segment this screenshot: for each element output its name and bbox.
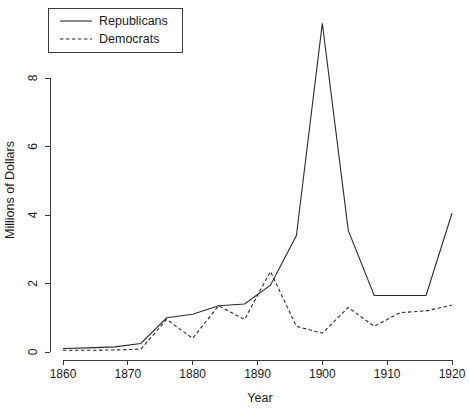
y-tick-label-6: 6: [26, 143, 40, 150]
x-tick-label-1870: 1870: [114, 367, 141, 381]
legend-label-democrats: Democrats: [99, 32, 159, 46]
y-tick-label-4: 4: [26, 211, 40, 218]
series-republicans: [63, 23, 452, 348]
x-tick-label-1890: 1890: [244, 367, 271, 381]
y-axis-title: Millions of Dollars: [3, 141, 17, 239]
y-axis-tick-labels: 02468: [26, 74, 40, 355]
legend-label-republicans: Republicans: [99, 14, 168, 28]
x-tick-label-1860: 1860: [50, 367, 77, 381]
x-tick-label-1920: 1920: [439, 367, 466, 381]
x-tick-label-1910: 1910: [374, 367, 401, 381]
x-axis-title: Year: [247, 391, 272, 405]
axis-group: [45, 78, 452, 365]
x-tick-label-1900: 1900: [309, 367, 336, 381]
x-axis-tick-labels: 1860187018801890190019101920: [50, 367, 466, 381]
series-democrats: [63, 272, 452, 351]
y-tick-label-8: 8: [26, 74, 40, 81]
chart-container: 02468 1860187018801890190019101920 Year …: [0, 0, 469, 409]
line-chart: 02468 1860187018801890190019101920 Year …: [0, 0, 469, 409]
x-axis-ticks: [63, 360, 452, 365]
series-group: [63, 23, 452, 350]
y-axis-ticks: [45, 78, 50, 352]
x-tick-label-1880: 1880: [179, 367, 206, 381]
y-tick-label-0: 0: [26, 348, 40, 355]
chart-legend: Republicans Democrats: [48, 8, 182, 52]
y-tick-label-2: 2: [26, 280, 40, 287]
